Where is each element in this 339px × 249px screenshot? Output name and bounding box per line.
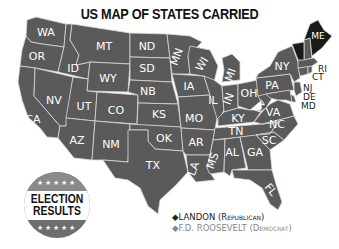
badge-stars-bottom: ★★★★★: [24, 224, 90, 232]
label-md: MD: [301, 101, 316, 111]
label-ca: CA: [25, 113, 41, 126]
label-ct: CT: [312, 72, 324, 82]
label-ga: GA: [247, 146, 264, 159]
label-al: AL: [225, 146, 240, 159]
label-mt: MT: [96, 40, 112, 53]
label-wy: WY: [99, 72, 117, 85]
legend-name: F.D. ROOSEVELT: [179, 223, 247, 233]
label-tn: TN: [228, 125, 244, 138]
state-nj[interactable]: [294, 82, 302, 96]
label-ar: AR: [188, 136, 204, 149]
label-nc: NC: [269, 118, 285, 131]
badge-stars-top: ★★★★★: [24, 179, 90, 187]
label-il: IL: [208, 94, 218, 107]
legend-party: (Democrat): [249, 223, 291, 233]
label-ks: KS: [152, 108, 166, 121]
label-nm: NM: [102, 138, 120, 151]
label-mo: MO: [185, 112, 203, 125]
label-ny: NY: [275, 60, 290, 73]
label-sd: SD: [139, 62, 154, 75]
label-tx: TX: [145, 159, 161, 172]
label-ia: IA: [184, 80, 195, 93]
label-ok: OK: [156, 132, 173, 145]
label-oh: OH: [241, 87, 258, 100]
label-id: ID: [67, 62, 79, 75]
label-va: VA: [266, 106, 281, 119]
label-sc: SC: [262, 134, 277, 147]
label-nb: NB: [140, 85, 156, 98]
label-wa: WA: [37, 26, 55, 39]
badge-line2: RESULTS: [31, 205, 84, 217]
legend-item-roosevelt: ◆F.D. ROOSEVELT (Democrat): [172, 223, 292, 234]
label-nv: NV: [46, 94, 62, 107]
legend: ◆LANDON (Republican) ◆F.D. ROOSEVELT (De…: [172, 212, 292, 234]
label-nd: ND: [139, 40, 156, 53]
label-ut: UT: [77, 100, 92, 113]
election-results-badge: ★★★★★ ELECTION RESULTS ★★★★★: [24, 172, 90, 238]
label-pa: PA: [265, 79, 279, 92]
label-co: CO: [108, 104, 125, 117]
label-az: AZ: [69, 134, 85, 147]
legend-name: LANDON: [179, 212, 216, 222]
legend-item-landon: ◆LANDON (Republican): [172, 212, 292, 223]
legend-party: (Republican): [218, 212, 264, 222]
label-or: OR: [29, 50, 46, 63]
label-me: ME: [311, 31, 325, 41]
label-ky: KY: [231, 112, 245, 125]
